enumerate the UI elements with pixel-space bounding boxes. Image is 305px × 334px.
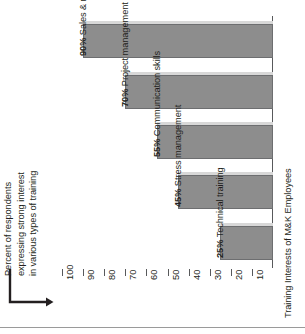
bar-value-label: 45% <box>173 189 183 207</box>
value-axis-tick <box>104 269 105 276</box>
value-axis-title-line-1: Percent of respondents <box>2 86 15 276</box>
bar-label: 70% Project management <box>120 2 130 107</box>
value-axis-tick <box>231 269 232 276</box>
value-axis-tick <box>125 269 126 276</box>
value-axis-title: Percent of respondents expressing strong… <box>2 86 54 276</box>
value-axis-title-line-2: expressing strong interest <box>15 86 28 276</box>
value-axis-tick-label: 100 <box>66 264 75 280</box>
value-axis-tick <box>189 269 190 276</box>
bar <box>220 226 273 260</box>
bar-category-label: Communication skills <box>152 51 162 139</box>
bar-value-label: 25% <box>215 239 225 257</box>
bar <box>125 75 273 109</box>
bar-value-label: 55% <box>152 139 162 157</box>
bottom-divider <box>0 327 305 328</box>
plot-area: 90% Sales & marketing training70% Projec… <box>62 16 273 268</box>
bar-category-label: Stress management <box>173 105 183 189</box>
category-axis-title: Training Interests of M&K Employees <box>283 168 294 318</box>
value-axis-tick-label: 50 <box>172 270 181 280</box>
value-axis-tick-label: 20 <box>235 270 244 280</box>
bar-label: 90% Sales & marketing training <box>78 0 88 56</box>
bar-label: 25% Technical training <box>215 167 225 258</box>
bar-label: 55% Communication skills <box>152 51 162 157</box>
value-axis-tick-label: 80 <box>108 270 117 280</box>
bar-chart-figure: Percent of respondents expressing strong… <box>0 0 305 334</box>
bar-category-label: Project management <box>120 2 130 88</box>
bar <box>83 24 273 58</box>
value-axis-tick <box>252 269 253 276</box>
value-axis-tick <box>210 269 211 276</box>
axis-direction-arrow-icon <box>6 268 54 310</box>
value-axis-tick <box>62 269 63 276</box>
value-axis: 100908070605040302010 <box>62 269 273 315</box>
value-axis-tick <box>146 269 147 276</box>
bar-category-label: Technical training <box>215 167 225 239</box>
bar <box>178 175 273 209</box>
value-axis-tick-label: 60 <box>150 270 159 280</box>
value-axis-tick-label: 90 <box>87 270 96 280</box>
bar-value-label: 70% <box>120 88 130 106</box>
value-axis-tick-label: 10 <box>256 270 265 280</box>
bar-value-label: 90% <box>78 38 88 56</box>
value-axis-tick <box>83 269 84 276</box>
value-axis-tick-label: 70 <box>129 270 138 280</box>
bar-label: 45% Stress management <box>173 105 183 207</box>
bar-category-label: Sales & marketing training <box>78 0 88 38</box>
value-axis-tick-label: 40 <box>193 270 202 280</box>
value-axis-tick-label: 30 <box>214 270 223 280</box>
value-axis-tick <box>168 269 169 276</box>
value-axis-title-line-3: in various types of training <box>27 86 40 276</box>
